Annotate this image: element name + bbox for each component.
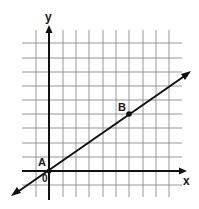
- y-axis-label: y: [45, 10, 52, 24]
- origin-label: 0: [42, 173, 48, 184]
- line-ab: [11, 71, 191, 196]
- point-a-label: A: [38, 156, 46, 168]
- point-b: [126, 111, 132, 117]
- x-axis-label: x: [183, 174, 190, 188]
- y-axis-arrow-icon: [46, 25, 53, 33]
- line-arrow-upper-icon: [181, 71, 191, 80]
- coordinate-plane: y x 0 A B: [0, 0, 199, 209]
- point-b-label: B: [118, 101, 126, 113]
- line-arrow-lower-icon: [11, 187, 21, 196]
